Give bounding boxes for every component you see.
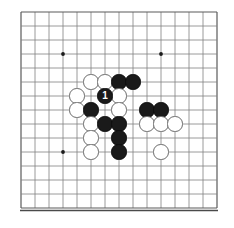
go-stone-black[interactable] bbox=[153, 102, 168, 117]
go-stone-white[interactable] bbox=[83, 130, 98, 145]
go-stone-white[interactable] bbox=[97, 74, 112, 89]
go-stone-white[interactable] bbox=[83, 116, 98, 131]
go-stone-black[interactable] bbox=[125, 74, 140, 89]
go-stone-black[interactable] bbox=[83, 102, 98, 117]
go-stone-black[interactable] bbox=[111, 130, 126, 145]
go-stone-black[interactable] bbox=[111, 74, 126, 89]
go-stone-white[interactable] bbox=[83, 74, 98, 89]
go-stone-white[interactable] bbox=[139, 116, 154, 131]
go-board-surface[interactable]: 1 bbox=[0, 0, 234, 228]
go-stone-white[interactable] bbox=[83, 144, 98, 159]
go-stone-white[interactable] bbox=[153, 144, 168, 159]
go-stone-white[interactable] bbox=[167, 116, 182, 131]
go-stone-white[interactable] bbox=[153, 116, 168, 131]
go-stone-move-number: 1 bbox=[98, 89, 111, 102]
go-stone-white[interactable] bbox=[69, 102, 84, 117]
go-stone-layer: 1 bbox=[0, 0, 234, 228]
go-stone-white[interactable] bbox=[111, 102, 126, 117]
go-board-diagram: 1 bbox=[0, 0, 234, 228]
go-stone-black[interactable] bbox=[139, 102, 154, 117]
go-stone-white[interactable] bbox=[111, 88, 126, 103]
go-stone-black[interactable] bbox=[111, 116, 126, 131]
go-stone-black[interactable] bbox=[97, 116, 112, 131]
go-stone-white[interactable] bbox=[69, 88, 84, 103]
go-stone-black-marked[interactable]: 1 bbox=[97, 88, 112, 103]
go-stone-black[interactable] bbox=[111, 144, 126, 159]
